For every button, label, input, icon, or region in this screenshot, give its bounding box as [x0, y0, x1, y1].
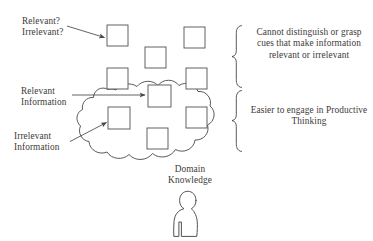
label-irrelevant-information: Irrelevant Information — [14, 131, 60, 154]
box-inside-center-top — [148, 85, 171, 107]
label-relevant-information: Relevant Information — [21, 86, 67, 109]
information-boxes — [107, 25, 207, 149]
box-inside-right — [186, 107, 207, 128]
label-cannot-distinguish: Cannot distinguish or grasp cues that ma… — [250, 27, 368, 61]
box-outside-top-left — [107, 25, 128, 46]
arrow-relevant-question — [67, 26, 105, 38]
arrow-irrelevant-information — [70, 123, 107, 142]
box-outside-top-right — [184, 27, 205, 48]
diagram-canvas: Relevant? Irrelevant? Relevant Informati… — [0, 0, 373, 241]
brace-upper — [232, 26, 242, 88]
label-domain-knowledge: Domain Knowledge — [151, 164, 229, 187]
box-edge-left — [107, 68, 128, 89]
person-figure — [174, 191, 198, 236]
box-edge-right — [186, 68, 207, 89]
label-relevant-question: Relevant? Irrelevant? — [22, 16, 63, 39]
brace-lower — [232, 91, 242, 152]
label-easier-engage: Easier to engage in Productive Thinking — [250, 105, 368, 128]
box-inside-left — [108, 107, 130, 129]
box-outside-top-middle — [145, 47, 166, 68]
box-inside-center-low — [147, 128, 168, 149]
